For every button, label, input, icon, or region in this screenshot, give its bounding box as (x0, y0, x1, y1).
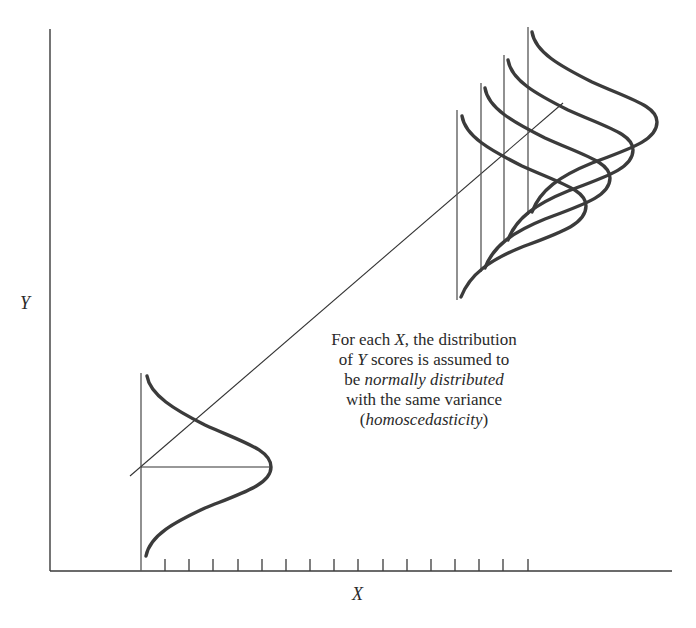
annotation-line-3: be normally distributed (304, 370, 544, 390)
lower-distribution-curve (146, 376, 271, 556)
annotation-line-5: (homoscedasticity) (304, 410, 544, 430)
x-axis-ticks (165, 559, 528, 571)
annotation-emphasis: normally distributed (364, 370, 503, 389)
y-axis-label: Y (20, 293, 30, 314)
annotation-var-y: Y (357, 350, 366, 369)
annotation-line-1: For each X, the distribution (304, 330, 544, 350)
upper-distributions (457, 27, 657, 300)
annotation-var-x: X (394, 330, 404, 349)
annotation-text: with the same variance (346, 390, 502, 409)
annotation-line-2: of Y scores is assumed to (304, 350, 544, 370)
x-axis-label: X (352, 584, 363, 605)
distribution-1-curve (461, 116, 586, 297)
annotation-text: be (344, 370, 364, 389)
regression-assumption-diagram (0, 0, 696, 628)
annotation-text: scores is assumed to (367, 350, 510, 369)
annotation-text: ) (483, 410, 489, 429)
annotation-emphasis: homoscedasticity (365, 410, 482, 429)
annotation-text: , the distribution (405, 330, 517, 349)
annotation-text: of (339, 350, 357, 369)
lower-distribution (141, 373, 271, 571)
homoscedasticity-annotation: For each X, the distribution of Y scores… (304, 330, 544, 430)
annotation-line-4: with the same variance (304, 390, 544, 410)
annotation-text: For each (331, 330, 394, 349)
